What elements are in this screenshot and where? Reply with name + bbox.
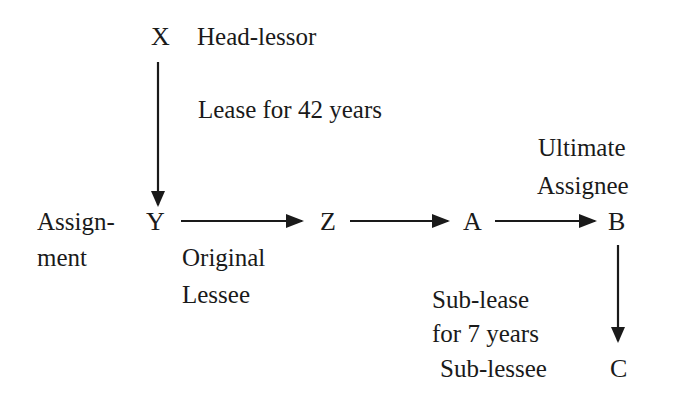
lease-assignment-diagram: X Head-lessor Lease for 42 years Ultimat… [0, 0, 690, 401]
assignment-line2: ment [37, 245, 87, 270]
lease-term-label: Lease for 42 years [198, 97, 382, 122]
arrows-layer [0, 0, 690, 401]
node-a: A [463, 209, 482, 234]
sub-lease-line2: for 7 years [432, 321, 539, 346]
sub-lease-line1: Sub-lease [432, 287, 529, 312]
node-b: B [608, 209, 625, 234]
sub-lessee-label: Sub-lessee [440, 356, 547, 381]
ultimate-assignee-line1: Ultimate [538, 135, 625, 160]
original-lessee-line1: Original [182, 245, 265, 270]
assignment-line1: Assign- [37, 209, 115, 234]
node-y: Y [146, 209, 165, 234]
head-lessor-label: Head-lessor [197, 24, 316, 49]
node-z: Z [320, 209, 336, 234]
original-lessee-line2: Lessee [182, 282, 250, 307]
node-c: C [610, 356, 627, 381]
ultimate-assignee-line2: Assignee [537, 173, 629, 198]
node-x: X [151, 24, 170, 49]
